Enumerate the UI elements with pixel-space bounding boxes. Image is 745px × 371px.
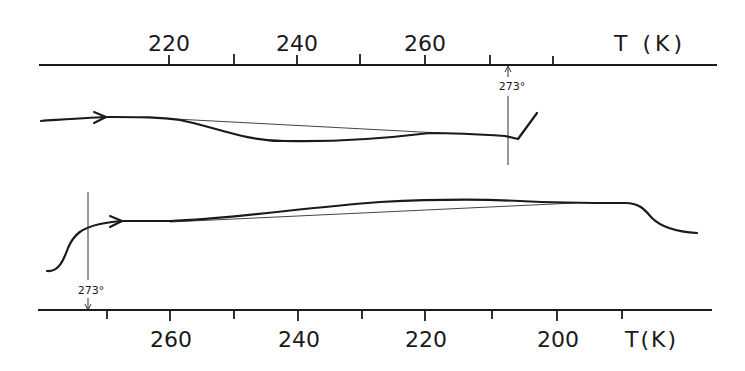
bottom-cooling-curve: [47, 200, 697, 271]
bottom-tick-label-200: 200: [537, 327, 579, 352]
top-273-marker: 273°: [499, 66, 526, 165]
top-tick-label-240: 240: [276, 31, 318, 56]
bottom-axis-title: T(K): [624, 327, 678, 352]
top-baseline-chord: [175, 119, 440, 133]
bottom-tick-label-220: 220: [405, 327, 447, 352]
bottom-tick-label-240: 240: [278, 327, 320, 352]
bottom-marker-label: 273°: [78, 284, 105, 297]
top-marker-label: 273°: [499, 80, 526, 93]
bottom-tick-label-260: 260: [150, 327, 192, 352]
top-tick-label-260: 260: [404, 31, 446, 56]
top-thermogram-trace: [41, 113, 537, 141]
top-heating-curve: [41, 112, 537, 141]
dsc-thermogram-figure: 220 240 260 T (K) 273° 273°: [0, 0, 745, 371]
bottom-temperature-axis: 260 240 220 200 T(K): [38, 310, 712, 352]
bottom-baseline-chord: [170, 203, 575, 222]
top-axis-title: T (K): [613, 31, 686, 56]
bottom-273-marker: 273°: [78, 192, 105, 310]
bottom-thermogram-trace: [47, 200, 697, 271]
top-tick-label-220: 220: [148, 31, 190, 56]
top-temperature-axis: 220 240 260 T (K): [39, 31, 717, 65]
